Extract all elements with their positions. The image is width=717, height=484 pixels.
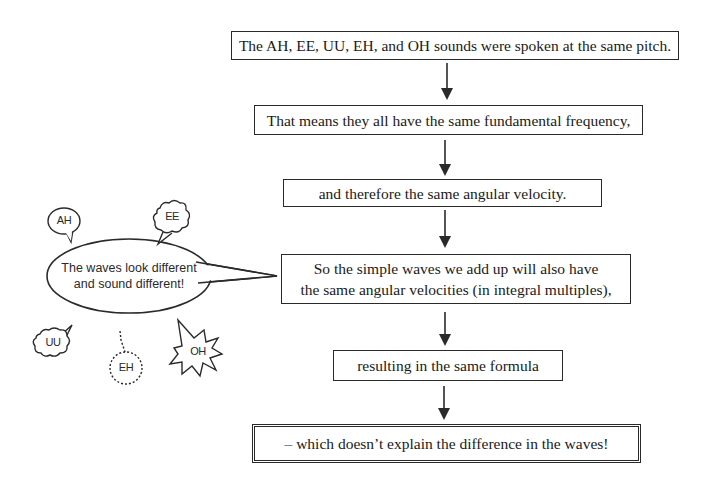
flow-step-4-line1: So the simple waves we add up will also … [314,258,599,279]
flow-step-4-line2: the same angular velocities (in integral… [300,279,611,300]
flow-step-2-text: That means they all have the same fundam… [267,110,631,131]
flow-step-5-text: resulting in the same formula [357,355,539,376]
main-bubble-line1: The waves look different [54,260,204,276]
flow-step-1-text: The AH, EE, UU, EH, and OH sounds were s… [239,35,671,56]
flow-step-6-conclusion: – which doesn’t explain the difference i… [252,424,641,463]
flow-step-5: resulting in the same formula [333,350,563,381]
flow-step-4: So the simple waves we add up will also … [281,254,631,304]
flow-step-1: The AH, EE, UU, EH, and OH sounds were s… [231,31,679,60]
eh-bubble [110,331,142,384]
main-bubble-line2: and sound different! [54,276,204,292]
eh-label: EH [111,361,141,373]
flow-step-3: and therefore the same angular velocity. [283,179,602,207]
flow-step-3-text: and therefore the same angular velocity. [319,183,567,204]
flow-step-6-text: – which doesn’t explain the difference i… [285,433,609,454]
uu-label: UU [40,336,66,348]
ah-label: AH [49,214,79,226]
oh-label: OH [183,345,213,357]
flow-step-2: That means they all have the same fundam… [254,105,643,135]
ee-bubble [153,201,189,245]
ee-label: EE [157,210,187,222]
diagram-graphics [0,0,717,484]
main-bubble-text: The waves look different and sound diffe… [54,260,204,292]
